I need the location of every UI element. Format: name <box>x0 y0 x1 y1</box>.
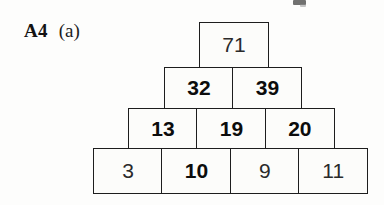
page-canvas: A4 (a) 71 3239 131920 310911 <box>0 0 384 205</box>
pyramid-cell-r4-c2: 10 <box>161 148 231 194</box>
pyramid-row-2: 3239 <box>164 67 302 109</box>
pyramid-cell-r3-c3: 20 <box>265 108 335 149</box>
pyramid-cell-r3-c2: 19 <box>196 108 266 149</box>
pyramid-cell-r4-c3: 9 <box>230 148 300 194</box>
pyramid-cell-r2-c2: 39 <box>232 67 302 109</box>
pyramid-row-1: 71 <box>199 22 269 68</box>
pyramid-row-3: 131920 <box>128 108 335 149</box>
pyramid-cell-r3-c1: 13 <box>128 108 198 149</box>
pyramid-cell-r1-c1: 71 <box>199 22 269 68</box>
number-pyramid: 71 3239 131920 310911 <box>0 0 384 205</box>
pyramid-row-4: 310911 <box>93 148 368 194</box>
pyramid-cell-r4-c4: 11 <box>298 148 368 194</box>
pyramid-cell-r4-c1: 3 <box>93 148 163 194</box>
pyramid-cell-r2-c1: 32 <box>164 67 234 109</box>
